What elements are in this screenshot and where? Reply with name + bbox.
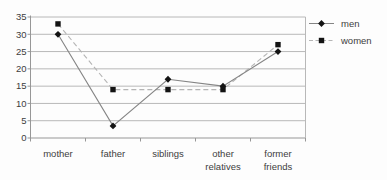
- x-category-label: other: [212, 148, 234, 159]
- y-tick-label: 25: [16, 46, 27, 57]
- men-legend-point: [318, 20, 325, 27]
- women-series-legend-marker-icon: [308, 36, 335, 45]
- x-category-label: mother: [43, 148, 73, 159]
- y-tick-label: 30: [16, 29, 27, 40]
- legend-item-men: men: [308, 19, 372, 29]
- x-category-label: former: [264, 148, 291, 159]
- chart-legend: men women: [308, 19, 372, 45]
- y-tick-label: 5: [21, 115, 26, 126]
- legend-label-men: men: [341, 19, 359, 29]
- y-tick-label: 15: [16, 80, 27, 91]
- x-category-label: father: [101, 148, 125, 159]
- women-data-point-marker: [220, 87, 225, 92]
- women-data-point-marker: [165, 87, 170, 92]
- x-category-label-line2: relatives: [205, 161, 241, 172]
- men-series-legend-marker-icon: [308, 19, 335, 28]
- x-category-label-line2: friends: [264, 161, 293, 172]
- men-data-point-marker: [55, 31, 62, 38]
- y-tick-label: 20: [16, 63, 27, 74]
- women-data-point-marker: [275, 42, 280, 47]
- women-legend-point: [319, 38, 324, 43]
- line-chart: 05101520253035motherfathersiblingsotherr…: [0, 0, 387, 180]
- x-category-label: siblings: [152, 148, 184, 159]
- y-tick-label: 0: [21, 132, 26, 143]
- legend-label-women: women: [341, 36, 372, 46]
- women-data-point-marker: [55, 21, 60, 26]
- y-tick-label: 35: [16, 11, 27, 22]
- men-data-point-marker: [275, 48, 282, 55]
- women-data-point-marker: [110, 87, 115, 92]
- y-tick-label: 10: [16, 98, 27, 109]
- legend-item-women: women: [308, 36, 372, 46]
